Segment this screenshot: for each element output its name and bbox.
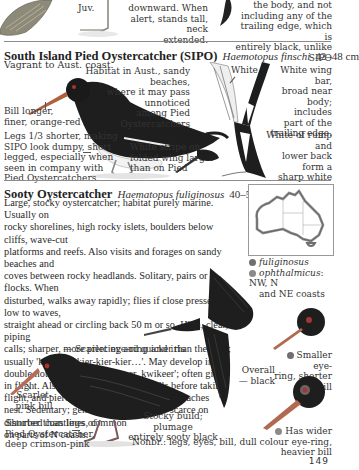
page-number: 149 [309,456,329,466]
legs-illustration [78,0,118,40]
top-mid-caption: downward. When alert, stands tall, neck … [128,3,208,45]
leader-line [83,152,91,153]
sooty-bill-callout: Scarlet- pink bill [14,390,54,411]
overall-black-callout: Overall — black [235,365,275,386]
section-divider [4,180,331,181]
sipo-legs-callout: Legs 1/3 shorter, making SIPO look dumpy… [4,131,118,184]
leader-line [45,102,46,110]
legend-dot-icon [275,428,282,435]
leader-line [72,430,80,431]
sipo-wingbar-callout: White wing bar, broad near body; include… [270,65,332,139]
sooty-eye-callout: — Scarlet eye-ring and iris [63,344,185,355]
australia-map-icon [249,185,333,255]
sipo-white-callout: White [231,65,258,76]
section-divider [4,41,331,42]
sipo-bill-callout: Bill longer, finer, orange-red [4,106,81,127]
sipo-habitat-callout: Habitat in Aust., sandy beaches, where i… [70,66,190,129]
juvenile-bird-illustration [0,0,60,36]
legend-dot-icon [249,259,256,266]
legend-dot-icon [287,352,294,359]
sooty-nonbr-callout: Nonbr.: legs, eyes, bill, dull colour [132,437,288,448]
species-latin: Haemotopus finschi [223,50,311,62]
sooty-legs-callout: Shorter than legs of Pied Oystercatcher,… [5,418,96,450]
legend-item-fuliginosus: fuliginosus [249,257,335,268]
distribution-map [248,184,334,256]
sooty-head-detail-illustration [265,300,335,350]
sipo-head-detail-illustration [175,148,235,176]
species-size: 42–48 cm [315,50,359,62]
